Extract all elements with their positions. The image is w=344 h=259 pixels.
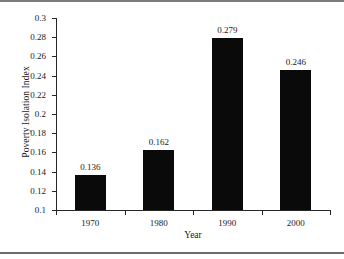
x-axis-category-label: 1970 (81, 218, 99, 228)
x-axis-title: Year (56, 230, 330, 240)
x-axis-category-label: 1980 (150, 218, 168, 228)
y-axis-tick-label: 0.26 (30, 51, 46, 61)
bar (212, 38, 243, 210)
x-axis-tick (56, 210, 57, 215)
bar-value-label: 0.279 (217, 25, 237, 35)
y-axis-tick: 0.28 (52, 37, 56, 38)
y-axis-tick-label: 0.3 (35, 13, 46, 23)
page-rule-bottom (0, 252, 344, 254)
x-axis-tick (193, 210, 194, 215)
y-axis-tick-label: 0.12 (30, 186, 46, 196)
y-axis-tick-label: 0.28 (30, 32, 46, 42)
chart-screenshot: Poverty Isolation Index 0.30.280.260.240… (0, 0, 344, 259)
y-axis-line (56, 18, 57, 211)
y-axis-tick-label: 0.14 (30, 167, 46, 177)
y-axis-tick: 0.26 (52, 56, 56, 57)
bar-value-label: 0.246 (286, 57, 306, 67)
bar-value-label: 0.162 (149, 137, 169, 147)
x-axis-tick (330, 210, 331, 215)
y-axis-tick: 0.12 (52, 191, 56, 192)
y-axis-tick: 0.2 (52, 114, 56, 115)
y-axis-tick: 0.18 (52, 133, 56, 134)
x-axis-category-label: 1990 (218, 218, 236, 228)
y-axis-tick: 0.22 (52, 95, 56, 96)
x-axis-tick (125, 210, 126, 215)
y-axis-tick-label: 0.18 (30, 128, 46, 138)
y-axis-tick: 0.3 (52, 18, 56, 19)
bar (143, 150, 174, 210)
bar-chart-figure: Poverty Isolation Index 0.30.280.260.240… (0, 2, 344, 252)
y-axis-tick: 0.24 (52, 76, 56, 77)
y-axis-tick-label: 0.1 (35, 205, 46, 215)
plot-area: 0.30.280.260.240.220.20.180.160.140.120.… (56, 18, 330, 211)
bar-value-label: 0.136 (80, 162, 100, 172)
y-axis-tick-label: 0.2 (35, 109, 46, 119)
x-axis-category-label: 2000 (287, 218, 305, 228)
y-axis-tick: 0.14 (52, 172, 56, 173)
y-axis-tick-label: 0.16 (30, 147, 46, 157)
y-axis-tick: 0.16 (52, 152, 56, 153)
y-axis-tick-label: 0.24 (30, 71, 46, 81)
x-axis-tick (262, 210, 263, 215)
bar (280, 70, 311, 210)
y-axis-tick-label: 0.22 (30, 90, 46, 100)
bar (75, 175, 106, 210)
